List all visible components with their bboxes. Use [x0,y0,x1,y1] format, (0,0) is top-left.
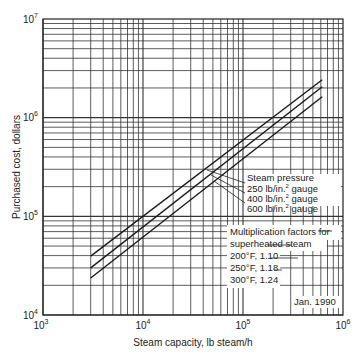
xtick-1e6: 106 [335,318,350,331]
xtick-1e3: 103 [33,318,48,331]
xtick-1e4: 104 [135,318,150,331]
factors-title-1: Multiplication factors for [230,226,330,237]
ytick-1e5: 105 [23,209,38,222]
factor-300: 300°F, 1.24 [230,274,278,285]
factor-250: 250°F, 1.18 [230,262,278,273]
factor-200: 200°F, 1.10 [230,250,278,261]
x-axis-label: Steam capacity, lb steam/h [133,337,252,348]
chart: 107 106 105 104 103 104 105 106 Steam ca… [0,0,357,354]
factors-title-2: superheated steam [230,238,311,249]
date-label: Jan. 1990 [294,296,336,307]
xtick-1e5: 105 [235,318,250,331]
legend-600: 600 lb/in.2 gauge [247,203,318,214]
ytick-1e7: 107 [23,12,38,25]
y-axis-label: Purchased cost, dollars [11,115,22,219]
ytick-1e6: 106 [23,110,38,123]
grid [43,19,343,315]
legend-title: Steam pressure [247,172,314,183]
plot-frame [43,19,343,315]
